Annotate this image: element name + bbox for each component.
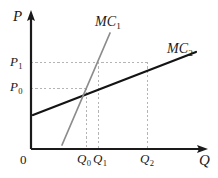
tick-label-p0-base: P: [10, 79, 18, 94]
tick-label-q0-sub: 0: [87, 158, 91, 168]
tick-label-p1: P1: [10, 55, 22, 68]
tick-label-q1-sub: 1: [103, 158, 107, 168]
curve-label-mc1: MC1: [95, 15, 121, 29]
guide-lines: [31, 62, 148, 149]
curve-label-mc1-base: MC: [95, 14, 116, 29]
curve-label-mc2: MC2: [167, 42, 193, 56]
tick-label-q1-base: Q: [93, 151, 102, 166]
curve-label-mc2-sub: 2: [188, 48, 193, 58]
curve-mc2: [33, 52, 196, 115]
tick-label-p0-sub: 0: [18, 86, 22, 96]
marginal-cost-diagram: P Q 0 P1 P0 Q0 Q1 Q2 MC1 MC2: [0, 0, 218, 178]
tick-label-q2: Q2: [140, 152, 154, 165]
tick-label-p1-base: P: [10, 54, 18, 69]
tick-label-q1: Q1: [93, 152, 107, 165]
tick-label-p1-sub: 1: [18, 61, 22, 71]
tick-label-p0: P0: [10, 80, 22, 93]
tick-label-q2-base: Q: [140, 151, 149, 166]
origin-label: 0: [20, 153, 27, 166]
x-axis-label: Q: [199, 153, 210, 168]
curve-label-mc2-base: MC: [167, 41, 188, 56]
tick-label-q2-sub: 2: [150, 158, 154, 168]
tick-label-q0: Q0: [77, 152, 91, 165]
tick-label-q0-base: Q: [77, 151, 86, 166]
y-axis-label: P: [13, 9, 22, 24]
curve-label-mc1-sub: 1: [116, 21, 121, 31]
